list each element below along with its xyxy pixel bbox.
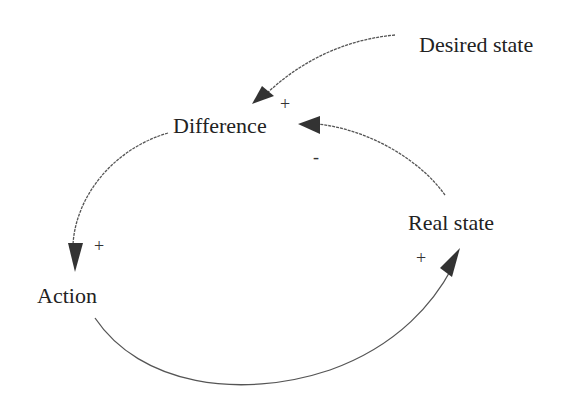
diagram-links (0, 0, 585, 406)
polarity-desired-to-difference: + (280, 95, 290, 113)
arrowhead-real-to-difference (298, 116, 320, 134)
link-difference-to-action (73, 133, 168, 245)
node-difference: Difference (173, 115, 267, 137)
link-real-to-difference (318, 124, 445, 195)
arrowhead-desired-to-difference (252, 86, 274, 104)
node-action: Action (37, 285, 97, 307)
causal-loop-diagram: Desired state Difference Real state Acti… (0, 0, 585, 406)
polarity-difference-to-action: + (94, 237, 104, 255)
polarity-real-to-difference: - (313, 148, 319, 166)
link-desired-to-difference (262, 35, 395, 98)
polarity-action-to-real: + (416, 249, 426, 267)
node-desired-state: Desired state (419, 34, 533, 56)
link-action-to-real (95, 268, 452, 385)
arrowhead-difference-to-action (68, 243, 83, 272)
node-real-state: Real state (408, 212, 494, 234)
arrowhead-action-to-real (440, 248, 460, 277)
